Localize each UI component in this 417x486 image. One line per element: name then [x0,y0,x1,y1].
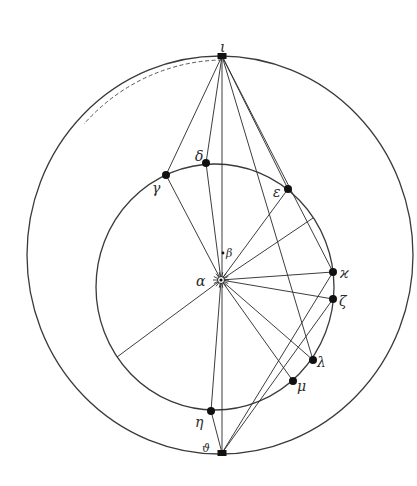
label-theta: ϑ [202,442,210,455]
label-alpha: α [196,273,206,289]
point-epsilon [284,185,292,193]
label-beta: β [225,247,232,260]
label-iota: ι [220,39,226,55]
point-zeta [329,295,337,303]
label-eta: η [195,414,204,430]
point-gamma [162,171,170,179]
label-gamma: γ [152,180,161,196]
point-lambda [309,356,317,364]
label-lambda: λ [316,354,326,370]
label-kappa: ϰ [339,265,349,281]
point-eta [207,407,215,415]
point-theta [218,450,227,456]
geometric-diagram: ι δ γ ε β α ϰ ζ λ μ η ϑ [0,0,417,486]
label-delta: δ [195,148,203,164]
point-kappa [329,268,337,276]
point-beta [222,252,225,255]
label-mu: μ [297,378,306,394]
label-epsilon: ε [273,184,281,200]
point-mu [289,377,297,385]
